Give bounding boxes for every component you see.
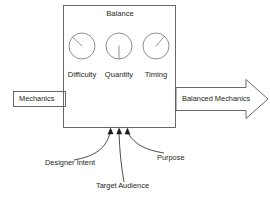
gauge-difficulty bbox=[69, 33, 95, 59]
gauge-timing bbox=[143, 33, 169, 59]
influence-label-target-audience: Target Audience bbox=[96, 182, 149, 189]
callout-curve-target-audience bbox=[119, 133, 124, 182]
influence-label-designer-intent: Designer Intent bbox=[45, 159, 95, 166]
balance-box bbox=[64, 6, 176, 128]
gauge-label-timing: Timing bbox=[128, 71, 184, 79]
callout-curve-designer-intent bbox=[74, 133, 110, 160]
balance-diagram: Balance Difficulty Quantity Timing Mecha… bbox=[0, 0, 270, 199]
gauge-quantity bbox=[106, 33, 132, 59]
influence-label-purpose: Purpose bbox=[157, 154, 185, 161]
callout-arrowhead-purpose bbox=[125, 128, 131, 135]
balanced-mechanics-output-label: Balanced Mechanics bbox=[182, 95, 250, 102]
balance-box-title: Balance bbox=[0, 10, 240, 18]
mechanics-input-label: Mechanics bbox=[19, 95, 54, 102]
callout-arrowhead-designer-intent bbox=[108, 128, 114, 135]
callout-arrowhead-target-audience bbox=[116, 128, 122, 135]
callout-curve-purpose bbox=[128, 133, 164, 153]
